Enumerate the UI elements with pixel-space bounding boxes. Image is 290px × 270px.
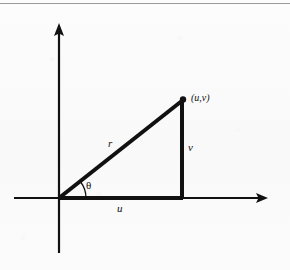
- figure-container: r θ u v (u,v): [0, 0, 290, 270]
- label-angle-theta: θ: [86, 180, 91, 191]
- label-point-uv: (u,v): [191, 93, 210, 103]
- point-marker: [180, 96, 186, 102]
- coordinate-diagram: [0, 0, 290, 270]
- label-horizontal-leg-u: u: [117, 203, 123, 214]
- triangle-hypotenuse: [59, 100, 183, 198]
- label-vertical-leg-v: v: [188, 142, 193, 153]
- label-radius-r: r: [108, 138, 112, 149]
